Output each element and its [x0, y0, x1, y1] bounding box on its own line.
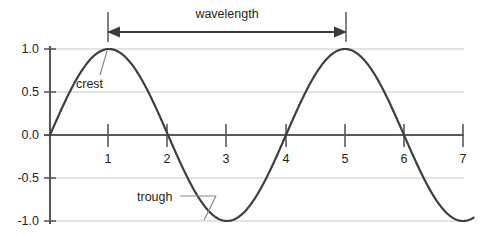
wavelength-annotation: wavelength: [107, 7, 347, 42]
x-tick-label-5: 5: [342, 152, 349, 166]
x-tick-label-3: 3: [223, 152, 230, 166]
x-tick-label-2: 2: [164, 152, 171, 166]
y-tick-label-1.0: 1.0: [22, 42, 39, 56]
trough-label: trough: [137, 190, 172, 204]
x-tick-label-1: 1: [105, 152, 112, 166]
x-tick-label-4: 4: [283, 152, 290, 166]
crest-leader-line: [100, 51, 107, 75]
y-tick-label--1.0: -1.0: [17, 214, 39, 228]
x-tick-label-7: 7: [460, 152, 467, 166]
wave-chart-svg: 1.0 0.5 0.0 -0.5 -1.0 1 2 3 4 5 6 7 wave…: [0, 0, 482, 237]
wavelength-arrowhead-right: [334, 27, 347, 38]
crest-label: crest: [76, 77, 104, 91]
y-tick-labels: 1.0 0.5 0.0 -0.5 -1.0: [17, 42, 39, 228]
wavelength-arrowhead-left: [107, 27, 120, 38]
y-tick-label--0.5: -0.5: [17, 171, 39, 185]
wave-diagram-figure: 1.0 0.5 0.0 -0.5 -1.0 1 2 3 4 5 6 7 wave…: [0, 0, 482, 237]
y-tick-label-0.5: 0.5: [22, 85, 39, 99]
x-tick-label-6: 6: [401, 152, 408, 166]
wavelength-label: wavelength: [194, 7, 258, 21]
y-tick-label-0.0: 0.0: [22, 128, 39, 142]
